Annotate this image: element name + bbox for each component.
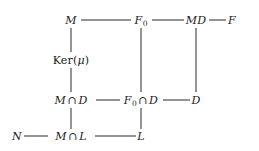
node-n: N	[12, 131, 22, 142]
node-f0-cap-d-subscript: 0	[132, 99, 137, 108]
edge-n-mil	[24, 136, 48, 137]
intersection-icon: ∩	[137, 94, 149, 107]
edge-f0id-l	[141, 108, 142, 129]
edge-f0id-d	[163, 100, 190, 101]
node-l: L	[137, 131, 145, 142]
node-m-cap-d-left: M	[55, 94, 66, 107]
node-m-cap-l-left: M	[55, 130, 66, 143]
lattice-diagram: M F0 MD F Ker(μ) M∩D F0∩D D N M∩L L	[0, 0, 259, 151]
node-md: MD	[186, 15, 206, 26]
edge-m-kermu	[71, 28, 72, 52]
node-ker-mu-prefix: Ker(	[53, 54, 78, 67]
node-f0-cap-d-right: D	[149, 94, 158, 107]
node-ker-mu-suffix: )	[85, 54, 90, 67]
edge-f0-f0id	[141, 28, 142, 92]
edge-md-d	[196, 28, 197, 92]
edge-kermu-mid	[71, 68, 72, 92]
edge-md-f	[209, 20, 226, 21]
node-m-cap-l-right: L	[79, 130, 87, 143]
intersection-icon: ∩	[66, 94, 78, 107]
edge-mid-mil	[71, 108, 72, 129]
edge-f0-md	[152, 20, 184, 21]
node-f0: F0	[135, 15, 148, 26]
edge-mil-l	[95, 136, 136, 137]
node-m: M	[65, 15, 76, 26]
node-f: F	[228, 15, 236, 26]
node-d: D	[191, 95, 200, 106]
edge-m-f0	[81, 20, 131, 21]
node-f0-cap-d: F0∩D	[124, 95, 158, 106]
node-m-cap-d-right: D	[78, 94, 87, 107]
node-m-cap-d: M∩D	[55, 95, 88, 106]
edge-mid-f0id	[96, 100, 120, 101]
node-m-cap-l: M∩L	[55, 131, 86, 142]
node-ker-mu: Ker(μ)	[53, 55, 90, 66]
node-f0-label: F	[135, 14, 143, 27]
intersection-icon: ∩	[67, 130, 79, 143]
node-f0-cap-d-left: F	[124, 94, 132, 107]
node-f0-subscript: 0	[143, 19, 148, 28]
